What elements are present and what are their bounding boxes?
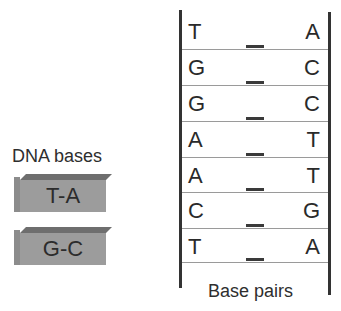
right-base-letter: T xyxy=(300,129,320,151)
right-base-letter: T xyxy=(300,165,320,187)
left-base-letter: A xyxy=(188,165,203,187)
ladder-rung xyxy=(182,228,328,229)
right-base-letter: A xyxy=(300,21,320,43)
left-base-letter: T xyxy=(188,21,201,43)
left-base-letter: C xyxy=(188,200,204,222)
ladder-rung xyxy=(182,121,328,122)
ladder-rung xyxy=(182,262,328,263)
pair-bond-dash xyxy=(246,45,264,48)
ladder-rung xyxy=(182,157,328,158)
pair-bond-dash xyxy=(246,81,264,84)
right-base-letter: C xyxy=(300,93,320,115)
right-base-letter: C xyxy=(300,57,320,79)
left-base-letter: G xyxy=(188,93,205,115)
block-label: T-A xyxy=(20,180,106,212)
base-block-g-c: G-C xyxy=(14,227,106,265)
legend-title: DNA bases xyxy=(12,146,102,167)
ladder-rung xyxy=(182,85,328,86)
right-base-letter: G xyxy=(300,200,320,222)
right-backbone-rail xyxy=(328,12,331,295)
pair-bond-dash xyxy=(246,258,264,261)
ladder-caption: Base pairs xyxy=(208,281,293,302)
pair-bond-dash xyxy=(246,188,264,191)
left-backbone-rail xyxy=(179,10,182,288)
ladder-rung xyxy=(182,49,328,50)
left-base-letter: G xyxy=(188,57,205,79)
left-base-letter: T xyxy=(188,236,201,258)
ladder-rung xyxy=(182,192,328,193)
pair-bond-dash xyxy=(246,224,264,227)
right-base-letter: A xyxy=(300,236,320,258)
left-base-letter: A xyxy=(188,129,203,151)
base-block-t-a: T-A xyxy=(14,174,106,212)
pair-bond-dash xyxy=(246,153,264,156)
block-label: G-C xyxy=(20,233,106,265)
pair-bond-dash xyxy=(246,117,264,120)
